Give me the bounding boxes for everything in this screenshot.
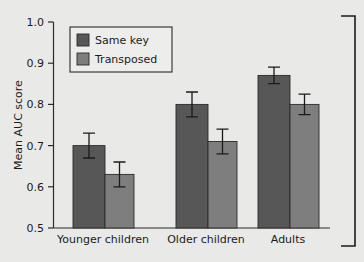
legend-label-transposed: Transposed xyxy=(94,53,157,66)
y-tick-label-0.6: 0.6 xyxy=(27,181,45,194)
y-tick-label-0.5: 0.5 xyxy=(27,222,45,235)
legend-swatch-same-key xyxy=(77,34,89,46)
y-tick-label-0.7: 0.7 xyxy=(27,140,45,153)
bar-same-key-older-children xyxy=(176,104,208,228)
bar-group-older-children xyxy=(176,92,237,228)
bar-transposed-adults xyxy=(290,104,319,228)
figure-panel: 1.0 0.9 0.8 0.7 0.6 0.5 Mean AUC score xyxy=(0,0,364,262)
x-category-labels: Younger children Older children Adults xyxy=(56,233,305,246)
bar-chart: 1.0 0.9 0.8 0.7 0.6 0.5 Mean AUC score xyxy=(0,0,364,262)
y-tick-label-0.8: 0.8 xyxy=(27,98,45,111)
legend-label-same-key: Same key xyxy=(95,34,149,47)
x-label-older-children: Older children xyxy=(167,233,245,246)
x-label-adults: Adults xyxy=(271,233,306,246)
legend-swatch-transposed xyxy=(77,53,89,65)
y-axis-title: Mean AUC score xyxy=(12,80,25,170)
x-label-younger-children: Younger children xyxy=(56,233,149,246)
legend: Same key Transposed xyxy=(70,27,172,72)
y-tick-label-0.9: 0.9 xyxy=(27,57,45,70)
bar-group-adults xyxy=(258,67,319,228)
crop-bracket-right xyxy=(341,16,355,246)
bar-same-key-adults xyxy=(258,75,290,228)
bar-group-younger-children xyxy=(73,133,134,228)
y-tick-label-1.0: 1.0 xyxy=(27,16,45,29)
y-tick-labels: 1.0 0.9 0.8 0.7 0.6 0.5 xyxy=(27,16,45,235)
